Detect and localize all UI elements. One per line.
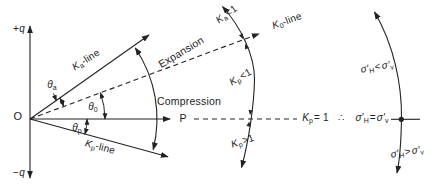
h-subscript: H	[364, 117, 369, 124]
label-theta-p: θp	[72, 123, 82, 133]
lateral-earth-pressure-stress-path-diagram: +q −q O P Ka-line K0-line Kp-line Expans…	[0, 0, 438, 194]
theta-subscript: p	[78, 127, 82, 134]
k0-line-ray	[30, 34, 259, 119]
theta-a-leader-arrow	[54, 94, 57, 102]
label-p-axis: P	[179, 113, 186, 124]
therefore-symbol: ∴	[338, 113, 344, 123]
compression-word: Compression	[157, 95, 221, 107]
k-symbol: K	[302, 112, 309, 123]
p-letter: P	[179, 112, 186, 124]
expansion-compression-arc	[135, 48, 157, 150]
theta-subscript: 0	[94, 106, 98, 113]
label-compression-zone: Compression	[157, 96, 221, 107]
label-theta-0: θ0	[88, 102, 98, 112]
label-origin: O	[14, 111, 23, 122]
therefore-glyph: ∴	[338, 112, 344, 123]
relation: = 1	[314, 112, 329, 123]
origin-letter: O	[14, 110, 23, 122]
label-plus-q: +q	[13, 24, 25, 34]
q-variable: q	[19, 167, 25, 178]
sigma-v-symbol: σ′	[377, 112, 385, 123]
theta-p-angle-arc	[85, 119, 87, 134]
label-minus-q: −q	[13, 168, 25, 178]
relation: =	[370, 112, 376, 123]
label-kp-equals-1: Kp= 1	[302, 113, 330, 123]
label-theta-a: θa	[47, 80, 57, 90]
k-subscript: p	[309, 117, 313, 124]
q-variable: q	[19, 23, 25, 34]
theta-subscript: a	[53, 84, 57, 91]
equality-point-dot	[399, 117, 404, 122]
theta-0-angle-arc	[100, 93, 105, 119]
k0-crossing-tick-upper	[239, 34, 243, 39]
theta-a-angle-arc	[60, 98, 64, 106]
v-subscript: v	[385, 117, 389, 124]
label-sigma-h-equals-sigma-v: σ′H=σ′v	[355, 113, 388, 123]
